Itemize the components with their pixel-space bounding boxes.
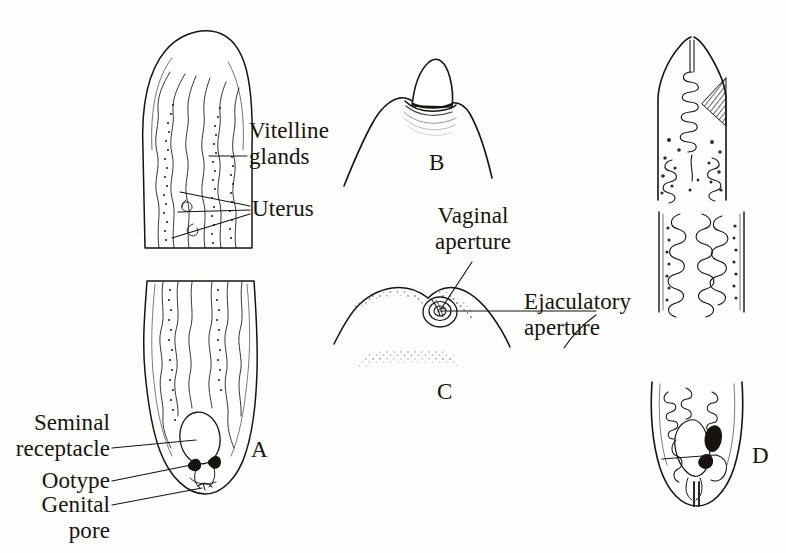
label-seminal-receptacle: Seminal receptacle	[0, 410, 110, 462]
label-vitelline-glands: Vitelline glands	[249, 118, 329, 170]
panel-letter-d: D	[752, 443, 769, 469]
plate-artwork	[0, 0, 786, 553]
label-genital-pore: Genital pore	[0, 492, 110, 544]
label-vaginal-aperture: Vaginal aperture	[398, 203, 548, 255]
panel-letter-c: C	[437, 379, 452, 405]
panel-c-drawing	[334, 287, 510, 364]
panel-b-drawing	[344, 59, 492, 186]
leader-genital	[112, 488, 202, 505]
label-uterus: Uterus	[252, 196, 314, 222]
panel-letter-a: A	[251, 437, 268, 463]
label-ejaculatory-aperture: Ejaculatory aperture	[524, 289, 631, 341]
panel-a-anterior-body	[143, 31, 253, 248]
panel-a-posterior-body	[144, 281, 258, 494]
panel-letter-b: B	[429, 150, 444, 176]
panel-d-drawing	[651, 382, 742, 506]
right-middle-drawing	[659, 212, 744, 317]
shaded-triangle	[702, 78, 726, 126]
illustration-plate: Vitelline glands Uterus Seminal receptac…	[0, 0, 786, 553]
right-top-drawing	[658, 37, 726, 203]
label-ootype: Ootype	[0, 468, 110, 494]
papilla	[412, 59, 453, 107]
